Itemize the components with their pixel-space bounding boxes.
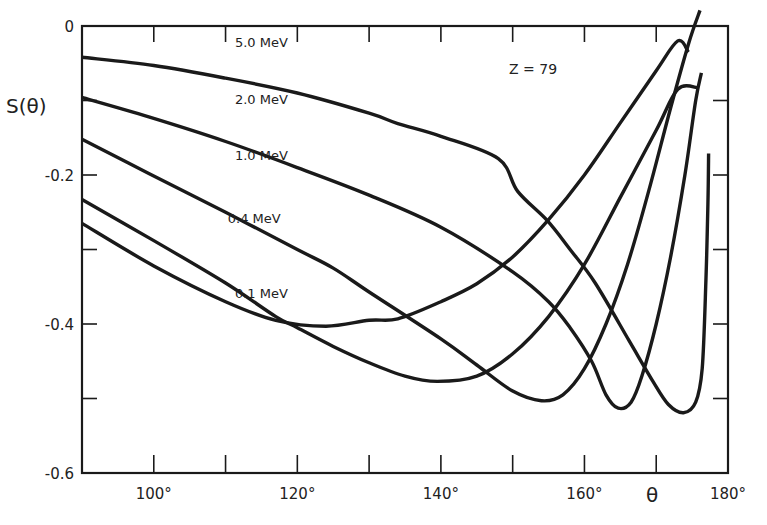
curves — [82, 10, 709, 412]
curve-label-2-0-mev: 2.0 MeV — [235, 92, 288, 107]
curve-5-0-mev — [82, 57, 709, 412]
y-tick-label: -0.4 — [45, 316, 74, 334]
curve-label-1-0-mev: 1.0 MeV — [235, 148, 288, 163]
curve-labels: 5.0 MeV2.0 MeV1.0 MeV0.4 MeV0.1 MeV — [228, 35, 288, 301]
atomic-number-annotation: Z = 79 — [509, 61, 557, 77]
curve-label-0-1-mev: 0.1 MeV — [235, 286, 288, 301]
x-tick-label: 100° — [136, 485, 172, 503]
x-axis-ticks: 100°120°140°160°180° — [136, 26, 746, 503]
x-tick-label: 140° — [423, 485, 459, 503]
curve-0-1-mev — [82, 40, 689, 326]
y-axis-ticks: 0-0.2-0.4-0.6 — [45, 18, 728, 483]
y-tick-label: -0.2 — [45, 167, 74, 185]
chart: 100°120°140°160°180° 0-0.2-0.4-0.6 5.0 M… — [0, 0, 767, 525]
y-axis-title: S(θ) — [6, 94, 47, 118]
x-tick-label: 120° — [279, 485, 315, 503]
y-tick-label: -0.6 — [45, 465, 74, 483]
curve-label-0-4-mev: 0.4 MeV — [228, 211, 281, 226]
y-tick-label: 0 — [64, 18, 74, 36]
curve-0-4-mev — [82, 86, 699, 382]
x-tick-label: 180° — [710, 485, 746, 503]
curve-label-5-0-mev: 5.0 MeV — [235, 35, 288, 50]
x-tick-label: 160° — [566, 485, 602, 503]
x-axis-title: θ — [646, 483, 658, 507]
